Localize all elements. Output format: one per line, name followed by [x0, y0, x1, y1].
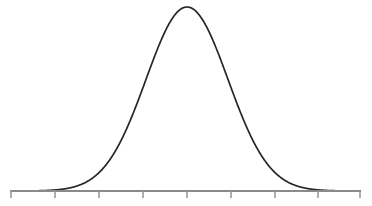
- normal-distribution-curve: [11, 7, 360, 191]
- horizontal-axis: [11, 191, 360, 198]
- chart-canvas: [0, 0, 372, 206]
- bell-curve-chart: [0, 0, 372, 206]
- x-axis-tick-labels: [0, 200, 372, 206]
- axis-tick-group: [11, 191, 360, 198]
- plot-area: [11, 7, 360, 191]
